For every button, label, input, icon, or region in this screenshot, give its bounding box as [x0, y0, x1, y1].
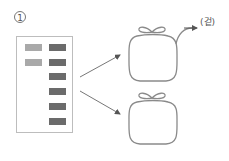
outside-label: (겉) — [200, 15, 215, 28]
bundle-bottom-icon — [129, 93, 177, 144]
arrow-down-icon — [80, 91, 120, 114]
arrow-up-icon — [80, 55, 120, 77]
bundle-top-icon — [129, 27, 192, 81]
diagram-art — [0, 0, 229, 161]
